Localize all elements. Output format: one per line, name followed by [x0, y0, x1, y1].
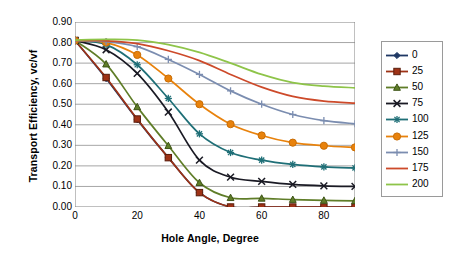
data-point-marker	[258, 132, 265, 139]
data-point-marker	[134, 70, 141, 77]
legend-item-50[interactable]: 50	[385, 78, 439, 94]
x-axis-tick-label: 40	[184, 210, 214, 221]
data-point-marker	[165, 154, 171, 160]
data-point-marker	[289, 161, 296, 168]
x-axis-tick-labels: 020406080	[75, 210, 355, 224]
data-point-marker	[320, 117, 327, 124]
data-point-marker	[165, 56, 172, 63]
legend: 0255075100125150175200	[381, 41, 443, 197]
x-axis-tick-label: 0	[60, 210, 90, 221]
data-point-marker	[289, 139, 296, 146]
legend-marker-icon	[385, 145, 409, 158]
series-line	[75, 41, 355, 201]
data-point-marker	[165, 75, 172, 82]
data-point-marker	[321, 204, 327, 207]
data-point-marker	[103, 74, 109, 80]
x-axis-tick-label: 20	[122, 210, 152, 221]
data-point-marker	[196, 130, 203, 137]
y-axis-tick-label: 0.10	[38, 181, 72, 191]
legend-marker-icon	[385, 177, 409, 190]
y-axis-tick-label: 0.50	[38, 99, 72, 109]
data-point-marker	[289, 111, 296, 118]
plot-area	[75, 22, 355, 207]
data-point-marker	[290, 204, 296, 207]
y-axis-tick-label: 0.30	[38, 140, 72, 150]
data-point-marker	[351, 144, 355, 151]
legend-item-100[interactable]: 100	[385, 111, 439, 127]
legend-label: 25	[409, 65, 423, 76]
data-point-marker	[227, 121, 234, 128]
data-point-marker	[320, 142, 327, 149]
data-point-marker	[393, 116, 400, 123]
data-point-marker	[394, 68, 400, 74]
data-point-marker	[258, 204, 264, 207]
series-line	[75, 41, 355, 124]
legend-label: 50	[409, 81, 423, 92]
data-point-marker	[393, 132, 400, 139]
y-axis-tick-label: 0.80	[38, 38, 72, 48]
y-axis-tick-labels: 0.000.100.200.300.400.500.600.700.800.90	[34, 22, 72, 207]
legend-item-200[interactable]: 200	[385, 176, 439, 192]
legend-item-125[interactable]: 125	[385, 127, 439, 143]
legend-label: 100	[409, 113, 429, 124]
data-point-marker	[196, 71, 203, 78]
legend-label: 175	[409, 162, 429, 173]
data-point-marker	[227, 204, 233, 207]
legend-marker-icon	[385, 48, 409, 61]
legend-item-0[interactable]: 0	[385, 46, 439, 62]
data-point-marker	[134, 116, 140, 122]
legend-marker-icon	[385, 96, 409, 109]
legend-marker-icon	[385, 64, 409, 77]
data-point-marker	[196, 189, 202, 195]
x-axis-title: Hole Angle, Degree	[60, 232, 360, 244]
legend-item-150[interactable]: 150	[385, 143, 439, 159]
data-point-marker	[196, 101, 203, 108]
data-point-marker	[196, 157, 203, 164]
y-axis-tick-label: 0.90	[38, 17, 72, 27]
series-50	[75, 37, 355, 204]
y-axis-tick-label: 0.20	[38, 161, 72, 171]
data-point-marker	[352, 204, 355, 207]
data-point-marker	[165, 109, 172, 116]
x-axis-tick-label: 80	[309, 210, 339, 221]
series-line	[75, 41, 355, 208]
legend-label: 75	[409, 97, 423, 108]
data-point-marker	[258, 101, 265, 108]
data-point-marker	[134, 61, 141, 68]
data-point-marker	[320, 163, 327, 170]
data-point-marker	[227, 149, 234, 156]
chart-figure: Transport Efficiency, vc/vf 0.000.100.20…	[0, 0, 453, 258]
data-point-marker	[165, 95, 172, 102]
legend-marker-icon	[385, 112, 409, 125]
legend-marker-icon	[385, 80, 409, 93]
x-axis-tick-label: 60	[247, 210, 277, 221]
plot-svg	[75, 22, 355, 207]
y-axis-tick-label: 0.40	[38, 120, 72, 130]
legend-item-75[interactable]: 75	[385, 95, 439, 111]
data-point-marker	[393, 149, 400, 156]
legend-item-175[interactable]: 175	[385, 159, 439, 175]
legend-marker-icon	[385, 161, 409, 174]
data-point-marker	[134, 51, 141, 58]
series-line	[75, 41, 355, 187]
y-axis-tick-label: 0.60	[38, 79, 72, 89]
data-point-marker	[351, 120, 355, 127]
legend-label: 200	[409, 178, 429, 189]
data-point-marker	[227, 87, 234, 94]
data-point-marker	[258, 157, 265, 164]
data-point-marker	[394, 52, 400, 58]
legend-label: 0	[409, 49, 418, 60]
legend-item-25[interactable]: 25	[385, 62, 439, 78]
y-axis-tick-label: 0.70	[38, 58, 72, 68]
legend-label: 125	[409, 130, 429, 141]
legend-marker-icon	[385, 129, 409, 142]
legend-label: 150	[409, 146, 429, 157]
series-line	[75, 41, 355, 208]
